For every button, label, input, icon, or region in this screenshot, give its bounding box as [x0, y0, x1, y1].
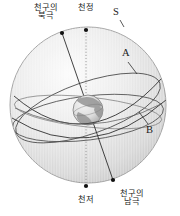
celestial-sphere-figure [0, 0, 180, 216]
dot-zenith [84, 28, 88, 32]
dot-north-celestial-pole [60, 31, 64, 35]
dot-nadir [84, 184, 88, 188]
earth-globe [72, 95, 103, 125]
dot-south-celestial-pole [111, 178, 115, 182]
leader-line-s [120, 20, 124, 27]
